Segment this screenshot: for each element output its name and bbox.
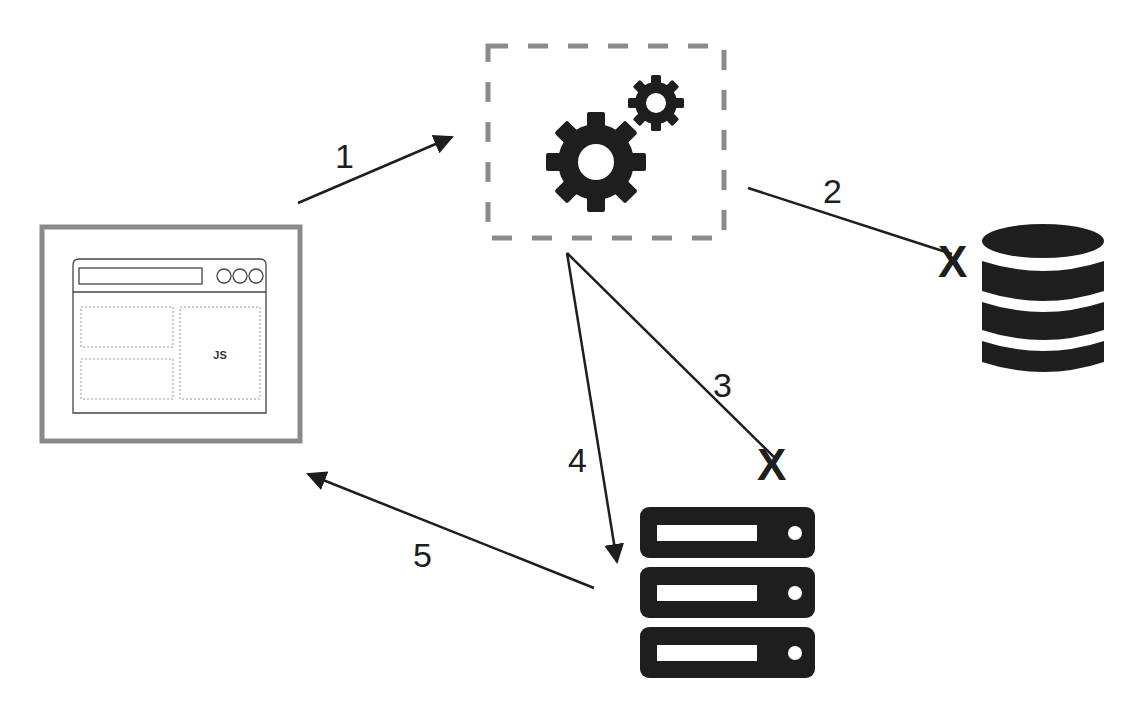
server-stack-icon [640,507,815,678]
client-browser-node: JS [42,227,300,441]
browser-window-icon: JS [73,259,266,413]
edge-5: 5 [308,474,594,588]
arrow-5 [308,474,594,588]
edge-2: 2 X [748,172,967,286]
gear-large-icon [546,112,646,212]
flow-diagram: JS [0,0,1141,713]
line-2 [748,188,952,254]
window-button-icon [249,269,263,283]
js-label: JS [213,349,226,361]
window-button-icon [233,269,247,283]
window-button-icon [217,269,231,283]
gear-small-icon [628,75,684,131]
address-bar-icon [79,268,202,284]
database-icon [982,224,1104,372]
blocked-x-icon: X [938,237,967,286]
edge-4: 4 [567,253,617,562]
server-unit-icon [640,507,815,558]
server-unit-icon [640,567,815,618]
edge-label-2: 2 [823,172,842,210]
arrow-1 [298,137,452,203]
server-unit-icon [640,627,815,678]
edge-label-5: 5 [413,536,432,574]
edge-label-1: 1 [335,137,354,175]
arrow-4 [567,253,617,562]
processor-node [488,46,724,238]
blocked-x-icon: X [757,440,786,489]
edge-label-3: 3 [713,366,732,404]
line-3 [567,253,775,458]
edge-1: 1 [298,137,452,203]
edge-label-4: 4 [568,441,587,479]
